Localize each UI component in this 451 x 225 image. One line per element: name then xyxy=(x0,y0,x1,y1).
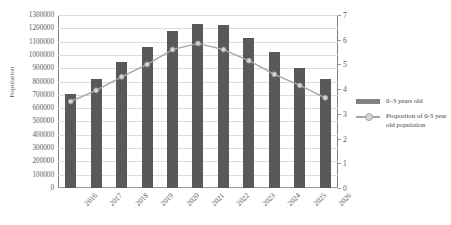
line-marker xyxy=(145,62,150,67)
y-axis-tick: 400000 xyxy=(32,131,54,139)
tick-mark xyxy=(338,139,341,140)
legend-item-label: Proportion of 0-3 year old population xyxy=(386,112,451,129)
x-axis-tick: 2019 xyxy=(158,191,175,208)
y-axis-tick: 700000 xyxy=(32,91,54,99)
y-axis-tick: 600000 xyxy=(32,104,54,112)
line-series xyxy=(58,15,338,188)
tick-mark xyxy=(338,188,341,189)
y-axis-tick: 300000 xyxy=(32,144,54,152)
chart-container: Population 01000002000003000004000005000… xyxy=(0,0,451,225)
y-axis-tick: 100000 xyxy=(32,171,54,179)
plot-area xyxy=(58,15,338,188)
x-axis-tick: 2024 xyxy=(286,191,303,208)
y-axis-tick: 1000000 xyxy=(29,51,54,59)
secondary-y-axis-tick: 2 xyxy=(343,134,347,143)
x-axis-tick: 2023 xyxy=(260,191,277,208)
line-marker xyxy=(221,47,226,52)
x-axis-tick: 2025 xyxy=(311,191,328,208)
x-axis-tick: 2022 xyxy=(235,191,252,208)
legend-item-bar: 0–3 years old xyxy=(356,97,451,107)
trend-line xyxy=(71,43,326,101)
x-axis-tick: 2018 xyxy=(133,191,150,208)
line-marker xyxy=(272,72,277,77)
line-swatch-icon xyxy=(356,112,382,122)
line-marker xyxy=(323,95,328,100)
x-axis-tick: 2026 xyxy=(337,191,354,208)
bar-swatch-icon xyxy=(356,97,382,107)
secondary-y-axis-tick: 7 xyxy=(343,11,347,20)
x-axis-tick: 2021 xyxy=(209,191,226,208)
line-marker xyxy=(68,99,73,104)
y-axis-tick-labels: 0100000200000300000400000500000600000700… xyxy=(8,15,54,188)
line-marker xyxy=(170,47,175,52)
y-axis-tick: 1100000 xyxy=(29,38,54,46)
x-axis-tick: 2016 xyxy=(82,191,99,208)
tick-mark xyxy=(338,15,341,16)
line-marker xyxy=(196,41,201,46)
secondary-y-axis-tick: 5 xyxy=(343,60,347,69)
y-axis-tick: 0 xyxy=(50,184,54,192)
x-axis-tick: 2020 xyxy=(184,191,201,208)
line-marker xyxy=(94,88,99,93)
chart-legend: 0–3 years old Proportion of 0-3 year old… xyxy=(356,97,451,134)
tick-mark xyxy=(338,89,341,90)
y-axis-tick: 500000 xyxy=(32,117,54,125)
legend-item-line: Proportion of 0-3 year old population xyxy=(356,112,451,129)
tick-mark xyxy=(338,40,341,41)
y-axis-tick: 800000 xyxy=(32,78,54,86)
line-marker xyxy=(119,74,124,79)
y-axis-tick: 900000 xyxy=(32,64,54,72)
secondary-y-axis-tick: 6 xyxy=(343,35,347,44)
tick-mark xyxy=(338,114,341,115)
tick-mark xyxy=(338,163,341,164)
secondary-y-axis-tick: 4 xyxy=(343,85,347,94)
line-marker xyxy=(247,58,252,63)
y-axis-tick: 200000 xyxy=(32,157,54,165)
secondary-y-axis-tick: 3 xyxy=(343,109,347,118)
y-axis-tick: 1300000 xyxy=(29,11,54,19)
x-axis-tick-labels: 2016201720182019202020212022202320242025… xyxy=(58,188,338,224)
line-marker xyxy=(297,83,302,88)
y-axis-tick: 1200000 xyxy=(29,24,54,32)
tick-mark xyxy=(338,64,341,65)
x-axis-tick: 2017 xyxy=(108,191,125,208)
legend-item-label: 0–3 years old xyxy=(386,97,451,106)
secondary-y-axis-tick: 1 xyxy=(343,159,347,168)
